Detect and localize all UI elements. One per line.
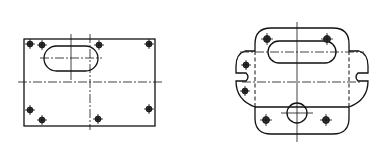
plate-outline	[24, 39, 155, 126]
hole-icon	[144, 104, 154, 114]
left-view	[18, 34, 162, 130]
hole-icon	[37, 40, 47, 50]
right-view	[236, 22, 368, 142]
hole-icon	[25, 105, 35, 115]
hole-icon	[93, 114, 103, 124]
technical-drawing	[0, 0, 382, 148]
hole-icon	[240, 86, 250, 96]
hole-icon	[94, 40, 104, 50]
hole-icon	[320, 114, 332, 126]
hole-icon	[144, 39, 154, 49]
hole-icon	[37, 115, 47, 125]
hole-icon	[241, 60, 251, 70]
hole-icon	[260, 114, 272, 126]
hole-icon	[25, 39, 35, 49]
hole-icon	[261, 33, 273, 45]
